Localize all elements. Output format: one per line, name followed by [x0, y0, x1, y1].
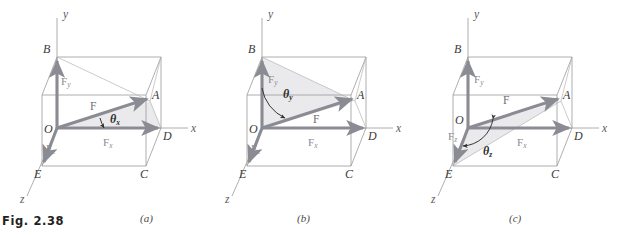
panel-label-a: (a) — [140, 212, 153, 224]
vertex-label-c: C — [140, 167, 149, 181]
force-label-f: F — [503, 94, 509, 106]
panel-b-diagram: y x z B A O D E C Fy Fx Fz F θy — [205, 0, 412, 238]
component-label-fx: Fx — [517, 136, 527, 150]
axis-label-z: z — [430, 193, 436, 205]
force-label-f: F — [313, 113, 319, 125]
vertex-label-a: A — [151, 88, 160, 102]
vertex-label-c: C — [345, 167, 354, 181]
panel-c-diagram: y x z B A O D E C Fy Fx Fz F θz — [411, 0, 618, 238]
vertex-label-e: E — [444, 167, 453, 181]
force-label-f: F — [90, 100, 96, 112]
vertex-label-e: E — [238, 167, 247, 181]
panel-a-diagram: y x z B A O D E C Fy Fx Fz F θx — [0, 0, 207, 238]
figure-2-38: y x z B A O D E C Fy Fx Fz F θx — [0, 0, 621, 238]
vertex-label-o: O — [249, 122, 258, 136]
axis-label-x: x — [395, 122, 402, 134]
axis-lines — [27, 18, 188, 196]
vertex-label-e: E — [33, 167, 42, 181]
axis-label-y: y — [62, 8, 69, 21]
component-label-fz: Fz — [448, 130, 457, 144]
vertex-label-o: O — [455, 113, 464, 127]
panel-b: y x z B A O D E C Fy Fx Fz F θy — [205, 0, 412, 238]
axis-lines — [438, 18, 599, 196]
figure-caption: Fig. 2.38 — [2, 214, 64, 228]
vertex-label-b: B — [43, 42, 51, 56]
component-label-fx: Fx — [308, 136, 318, 150]
panel-label-c: (c) — [509, 212, 521, 224]
axis-label-x: x — [190, 122, 197, 134]
component-label-fy: Fy — [61, 75, 71, 89]
axis-label-y: y — [267, 8, 274, 21]
vertex-label-c: C — [551, 167, 560, 181]
vertex-label-d: D — [162, 129, 172, 143]
vertex-label-a: A — [356, 88, 365, 102]
component-label-fx: Fx — [103, 136, 113, 150]
angle-label-theta-z: θz — [483, 144, 492, 159]
vertex-label-o: O — [44, 122, 53, 136]
axis-label-x: x — [601, 122, 608, 134]
panel-a: y x z B A O D E C Fy Fx Fz F θx — [0, 0, 207, 238]
axis-label-z: z — [224, 193, 230, 205]
vertex-label-b: B — [454, 42, 462, 56]
component-label-fy: Fy — [474, 73, 484, 87]
vertex-label-d: D — [573, 129, 583, 143]
shaded-triangle-oba — [262, 57, 355, 128]
component-label-fz: Fz — [46, 142, 55, 156]
vertex-label-a: A — [562, 88, 571, 102]
panel-c: y x z B A O D E C Fy Fx Fz F θz — [411, 0, 618, 238]
vertex-label-b: B — [248, 42, 256, 56]
component-label-fz: Fz — [251, 142, 260, 156]
panel-label-b: (b) — [297, 212, 310, 224]
axis-label-z: z — [19, 193, 25, 205]
axis-label-y: y — [473, 8, 480, 21]
vertex-label-d: D — [367, 129, 377, 143]
